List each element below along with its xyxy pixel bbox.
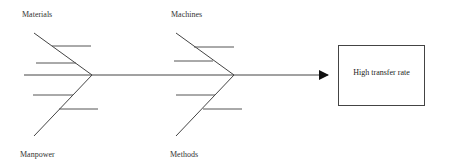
category-label-machines: Machines — [171, 10, 202, 19]
bone-materials — [34, 33, 92, 75]
bone-machines — [174, 33, 234, 75]
effect-box: High transfer rate — [338, 45, 425, 106]
category-label-manpower: Manpower — [20, 150, 55, 159]
effect-label: High transfer rate — [353, 68, 409, 77]
bone-manpower — [33, 75, 98, 136]
bone-methods — [176, 75, 242, 136]
category-label-methods: Methods — [170, 150, 198, 159]
category-label-materials: Materials — [22, 10, 52, 19]
